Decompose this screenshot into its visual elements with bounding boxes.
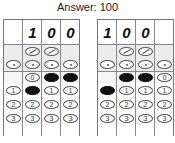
digit-bubble-0-filled[interactable]	[63, 73, 78, 82]
decimal-bubble[interactable]	[63, 60, 78, 69]
grid-column-3: 0 1 2 3	[135, 20, 155, 143]
digit-bubble-3[interactable]: 3	[100, 114, 115, 123]
written-digit: 0	[42, 20, 61, 44]
grid-column-3: 0 1 2 3	[41, 20, 61, 143]
written-digit	[4, 20, 23, 44]
torn-edge	[96, 136, 175, 143]
digit-bubble-0[interactable]: 0	[157, 73, 172, 82]
decimal-bubble[interactable]	[6, 60, 21, 69]
decimal-bubble[interactable]	[119, 60, 134, 69]
digit-bubble-1[interactable]: 1	[138, 86, 153, 95]
decimal-bubble[interactable]	[100, 60, 115, 69]
digit-bubble-3[interactable]: 3	[6, 114, 21, 123]
decimal-bubble[interactable]	[138, 60, 153, 69]
digit-bubble-2[interactable]: 2	[25, 100, 40, 109]
fraction-bubble[interactable]	[119, 47, 134, 56]
decimal-bubble[interactable]	[25, 60, 40, 69]
decimal-bubble[interactable]	[44, 60, 59, 69]
grid-column-2: 0 1 2 3	[116, 20, 136, 143]
digit-bubble-1[interactable]: 1	[44, 86, 59, 95]
grid-column-4: 0 1 2 3	[154, 20, 174, 143]
written-digit: 0	[136, 20, 155, 44]
digit-bubble-3[interactable]: 3	[157, 114, 172, 123]
fraction-bubble[interactable]	[44, 47, 59, 56]
right-answer-grid: 1 2 3 0 1 2 3 0 1 2 3 0 1 2 3	[97, 19, 174, 143]
grid-column-4: 0 1 2 3	[60, 20, 80, 143]
digit-bubble-3[interactable]: 3	[44, 114, 59, 123]
digit-bubble-0-filled[interactable]	[119, 73, 134, 82]
digit-bubble-1[interactable]: 1	[119, 86, 134, 95]
written-digit: 0	[61, 20, 80, 44]
digit-bubble-3[interactable]: 3	[138, 114, 153, 123]
digit-bubble-3[interactable]: 3	[63, 114, 78, 123]
digit-bubble-2[interactable]: 2	[138, 100, 153, 109]
digit-bubble-0-filled[interactable]	[44, 73, 59, 82]
fraction-bubble[interactable]	[25, 47, 40, 56]
written-digit: 1	[98, 20, 117, 44]
written-digit	[155, 20, 174, 44]
digit-bubble-2[interactable]: 2	[100, 100, 115, 109]
digit-bubble-2[interactable]: 2	[63, 100, 78, 109]
digit-bubble-1[interactable]: 1	[6, 86, 21, 95]
grid-column-1: 1 2 3	[98, 20, 117, 143]
digit-bubble-1[interactable]: 1	[63, 86, 78, 95]
digit-bubble-1-filled[interactable]	[25, 86, 40, 95]
digit-bubble-1-filled[interactable]	[100, 86, 115, 95]
digit-bubble-2[interactable]: 2	[119, 100, 134, 109]
grid-column-2: 1 0 2 3	[22, 20, 42, 143]
digit-bubble-0-filled[interactable]	[138, 73, 153, 82]
left-answer-grid: 1 2 3 1 0 2 3 0 1 2 3 0 1 2 3	[3, 19, 80, 143]
written-digit: 1	[23, 20, 42, 44]
digit-bubble-0[interactable]: 0	[25, 73, 40, 82]
grid-column-1: 1 2 3	[4, 20, 23, 143]
fraction-bubble[interactable]	[138, 47, 153, 56]
torn-edge	[2, 136, 82, 143]
digit-bubble-2[interactable]: 2	[6, 100, 21, 109]
answer-title: Answer: 100	[0, 1, 175, 13]
written-digit: 0	[117, 20, 136, 44]
digit-bubble-3[interactable]: 3	[25, 114, 40, 123]
decimal-bubble[interactable]	[157, 60, 172, 69]
digit-bubble-1[interactable]: 1	[157, 86, 172, 95]
digit-bubble-2[interactable]: 2	[157, 100, 172, 109]
digit-bubble-2[interactable]: 2	[44, 100, 59, 109]
digit-bubble-3[interactable]: 3	[119, 114, 134, 123]
